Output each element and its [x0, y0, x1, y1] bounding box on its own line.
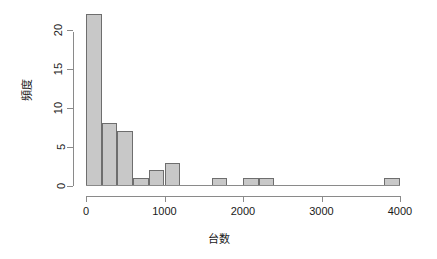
histogram-figure: 頻度 05101520 01000200030004000 台数 [0, 0, 437, 259]
y-axis-line [73, 32, 74, 186]
x-axis-tick [243, 196, 244, 202]
histogram-bar [165, 163, 181, 186]
plot-baseline [86, 185, 400, 186]
x-axis-tick-label: 2000 [218, 205, 268, 217]
y-axis-tick [67, 108, 73, 109]
y-axis-tick [67, 69, 73, 70]
y-axis-title: 頻度 [18, 60, 34, 120]
histogram-bar [86, 14, 102, 186]
y-axis-tick-label: 0 [40, 178, 64, 194]
x-axis-tick [400, 196, 401, 202]
x-axis-tick-label: 4000 [375, 205, 425, 217]
x-axis-tick [165, 196, 166, 202]
y-axis-tick [67, 30, 73, 31]
x-axis-tick [322, 196, 323, 202]
x-axis-tick-label: 0 [61, 205, 111, 217]
plot-area [86, 14, 400, 186]
x-axis-tick-label: 3000 [297, 205, 347, 217]
y-axis-tick-label: 15 [40, 61, 64, 77]
histogram-bar [149, 170, 165, 186]
x-axis-tick-label: 1000 [140, 205, 190, 217]
y-axis-tick [67, 186, 73, 187]
y-axis-tick-label: 10 [40, 100, 64, 116]
histogram-bar [102, 123, 118, 186]
x-axis-title: 台数 [0, 230, 437, 246]
x-axis-tick [86, 196, 87, 202]
y-axis-title-text: 頻度 [18, 79, 34, 101]
y-axis-tick-label: 20 [40, 22, 64, 38]
y-axis-tick-label: 5 [40, 139, 64, 155]
histogram-bar [117, 131, 133, 186]
y-axis-tick [67, 147, 73, 148]
